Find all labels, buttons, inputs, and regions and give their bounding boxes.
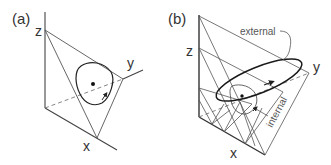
edge-xy (97, 79, 123, 138)
y-axis-label-b: y (313, 59, 320, 75)
panel-a: (a) z y x (12, 10, 143, 154)
x-axis-label-b: x (230, 145, 237, 161)
external-annotation-label: external (240, 26, 276, 37)
panel-b: (b) (168, 10, 320, 161)
external-leader-line (280, 31, 291, 60)
panel-b-label: (b) (168, 10, 186, 27)
y-axis-dashed (45, 79, 123, 108)
z-axis-label-b: z (186, 43, 193, 59)
y-axis-label-a: y (127, 55, 134, 71)
edge-outer-zy (199, 16, 309, 73)
internal-annotation-label: internal (264, 95, 289, 129)
panel-a-axes (45, 12, 143, 150)
x-axis (45, 108, 117, 150)
fixed-point-dot (91, 82, 95, 86)
fixed-point-dot (240, 94, 243, 97)
edge-small-xy (212, 110, 230, 124)
orbit-direction-arrow-icon (102, 94, 106, 100)
z-axis-label-a: z (35, 23, 42, 39)
diagram-canvas: (a) z y x (b) (0, 0, 331, 165)
panel-a-label: (a) (12, 10, 30, 27)
simplex-triangle-a (45, 30, 123, 138)
y-axis-extension (123, 70, 143, 79)
internal-leader-line (256, 109, 268, 116)
x-axis-label-a: x (83, 138, 90, 154)
